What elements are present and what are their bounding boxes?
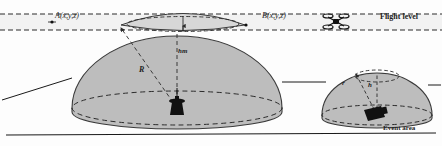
label-small-height: h [368, 82, 372, 89]
label-flight-level: Flight level [380, 13, 418, 21]
large-event-dome [72, 28, 282, 129]
ground-baseline [6, 133, 436, 135]
label-large-radius: R [139, 66, 144, 74]
label-small-radius: r [342, 80, 345, 87]
label-point-b: B(x,y,z) [262, 12, 286, 20]
small-event-dome [322, 70, 432, 128]
label-event-area: Event area [383, 125, 415, 132]
label-point-a: A(x,y,z) [55, 12, 79, 20]
diagram-canvas: A(x,y,z) B(x,y,z) Flight level R hm r h … [0, 0, 442, 146]
diagram-svg [0, 0, 442, 146]
ground-line-left [2, 78, 72, 100]
label-large-height: hm [178, 48, 187, 55]
point-b-marker [244, 23, 247, 26]
